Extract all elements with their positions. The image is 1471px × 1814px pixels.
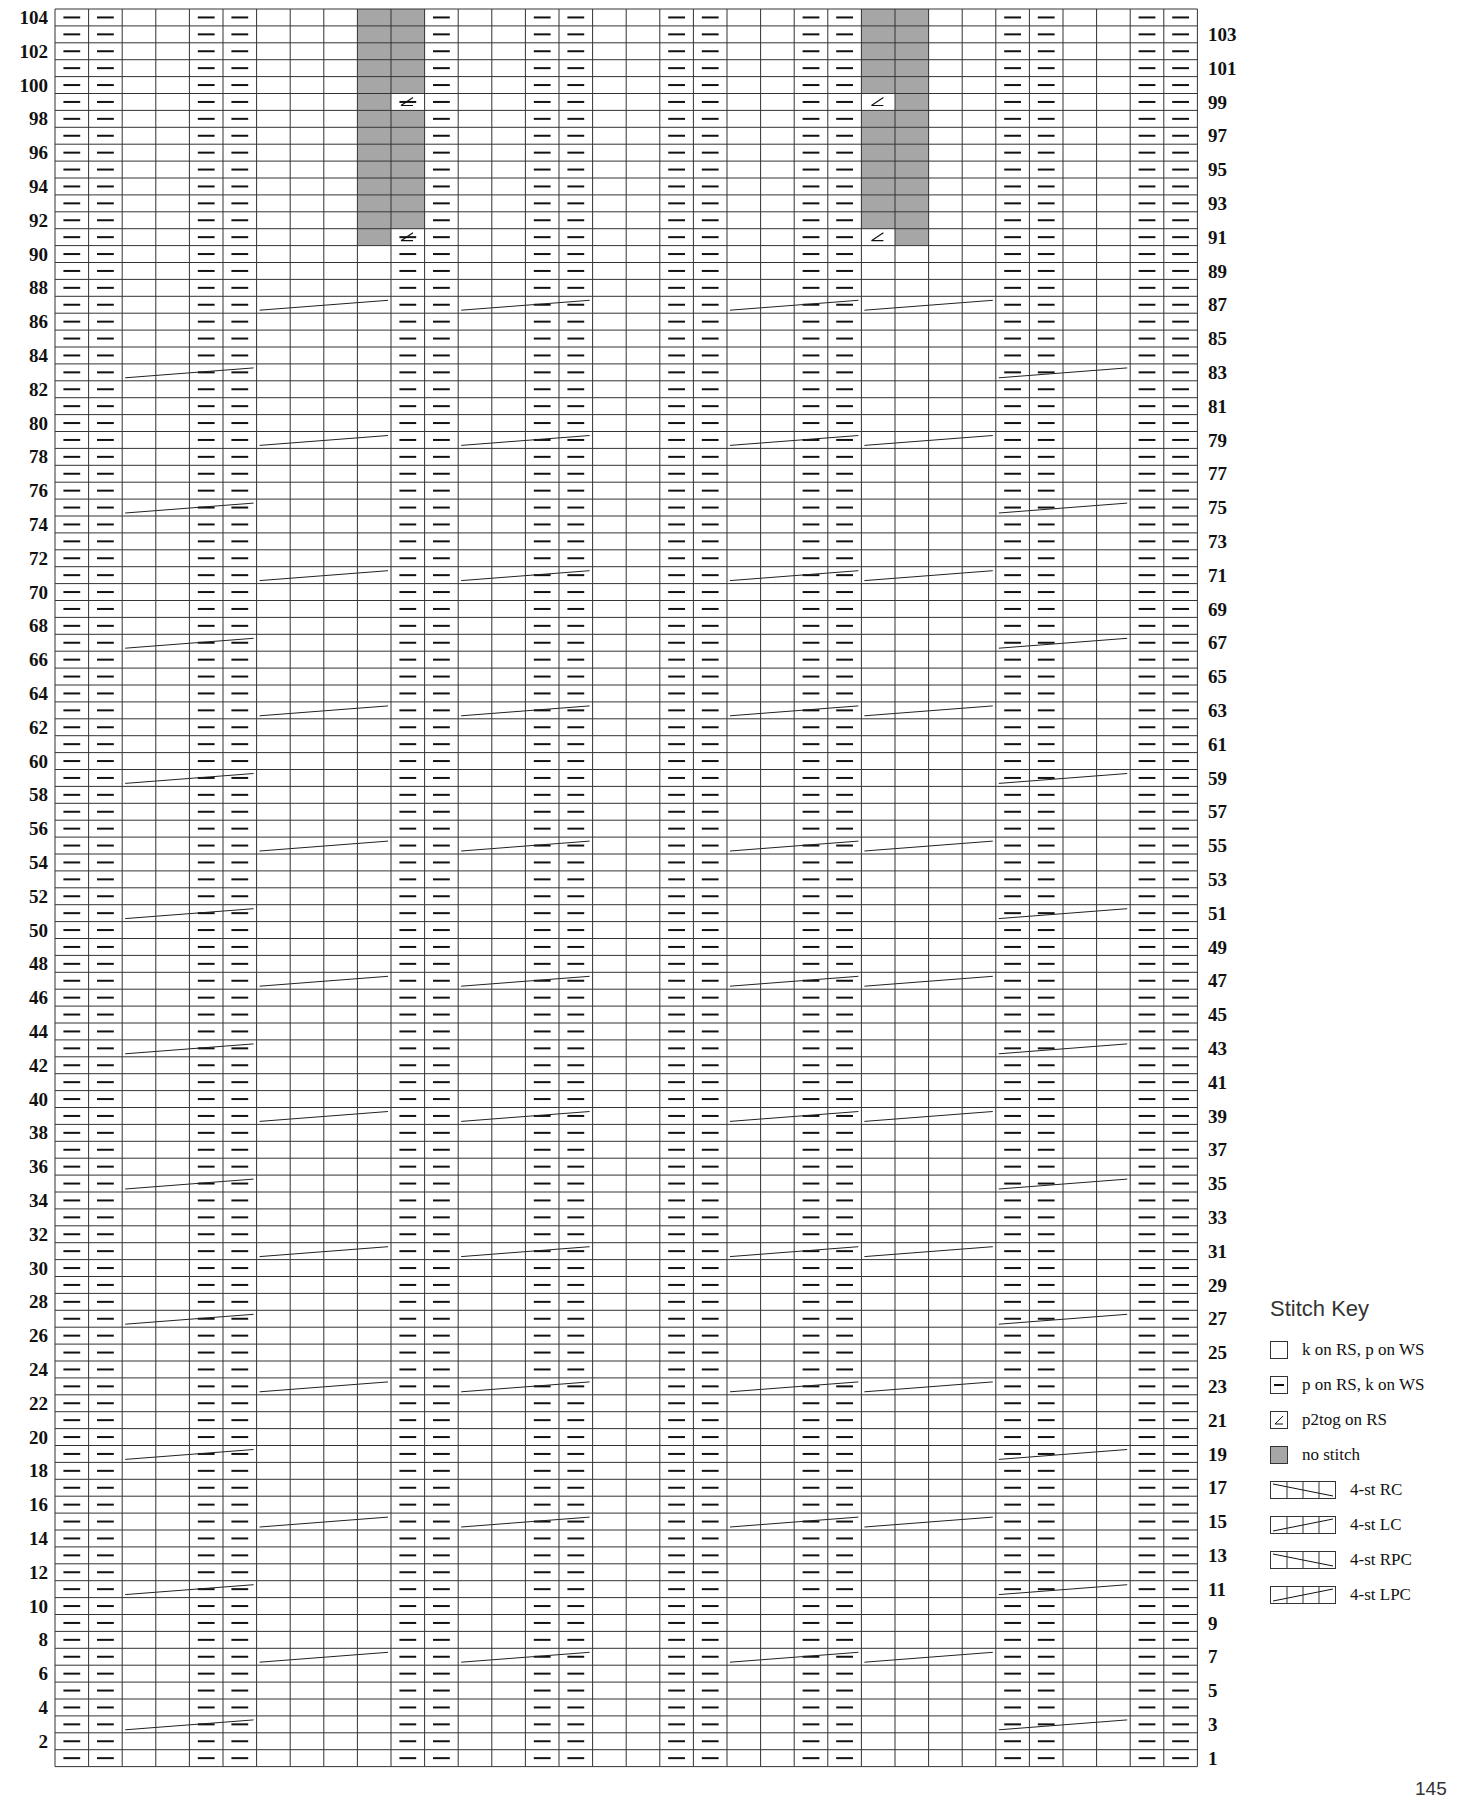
row-label-1: 1 <box>1208 1749 1218 1768</box>
row-label-82: 82 <box>4 380 48 399</box>
row-label-31: 31 <box>1208 1242 1227 1261</box>
key-item-cable-rc: 4-st RC <box>1270 1472 1470 1507</box>
row-label-98: 98 <box>4 109 48 128</box>
row-label-45: 45 <box>1208 1005 1227 1024</box>
key-item-label: no stitch <box>1302 1445 1360 1465</box>
row-label-66: 66 <box>4 650 48 669</box>
row-label-93: 93 <box>1208 194 1227 213</box>
row-label-85: 85 <box>1208 329 1227 348</box>
row-label-81: 81 <box>1208 397 1227 416</box>
row-label-65: 65 <box>1208 667 1227 686</box>
key-item-p2tog: p2tog on RS <box>1270 1402 1470 1437</box>
row-label-22: 22 <box>4 1394 48 1413</box>
row-label-29: 29 <box>1208 1276 1227 1295</box>
key-item-gray: no stitch <box>1270 1437 1470 1472</box>
row-label-56: 56 <box>4 819 48 838</box>
cable-rpc-icon <box>1270 1551 1336 1569</box>
row-label-35: 35 <box>1208 1174 1227 1193</box>
row-label-83: 83 <box>1208 363 1227 382</box>
row-label-51: 51 <box>1208 904 1227 923</box>
row-label-19: 19 <box>1208 1445 1227 1464</box>
row-label-47: 47 <box>1208 971 1227 990</box>
blank-icon <box>1270 1341 1288 1359</box>
row-label-89: 89 <box>1208 262 1227 281</box>
row-label-76: 76 <box>4 481 48 500</box>
row-label-84: 84 <box>4 346 48 365</box>
key-item-label: 4-st RC <box>1350 1480 1402 1500</box>
row-label-2: 2 <box>4 1732 48 1751</box>
row-label-55: 55 <box>1208 836 1227 855</box>
row-label-14: 14 <box>4 1529 48 1548</box>
row-label-28: 28 <box>4 1292 48 1311</box>
cable-rc-icon <box>1270 1481 1336 1499</box>
row-label-4: 4 <box>4 1698 48 1717</box>
knitting-chart <box>54 8 1198 1768</box>
row-label-44: 44 <box>4 1022 48 1041</box>
row-label-30: 30 <box>4 1259 48 1278</box>
stitch-key-title: Stitch Key <box>1270 1296 1470 1322</box>
row-label-41: 41 <box>1208 1073 1227 1092</box>
row-label-99: 99 <box>1208 93 1227 112</box>
row-label-87: 87 <box>1208 295 1227 314</box>
key-item-dash: p on RS, k on WS <box>1270 1367 1470 1402</box>
row-label-86: 86 <box>4 312 48 331</box>
row-label-60: 60 <box>4 752 48 771</box>
row-label-62: 62 <box>4 718 48 737</box>
row-label-13: 13 <box>1208 1546 1227 1565</box>
row-label-24: 24 <box>4 1360 48 1379</box>
row-label-3: 3 <box>1208 1715 1218 1734</box>
row-label-70: 70 <box>4 583 48 602</box>
row-label-59: 59 <box>1208 769 1227 788</box>
row-label-88: 88 <box>4 278 48 297</box>
row-label-6: 6 <box>4 1664 48 1683</box>
row-label-104: 104 <box>4 8 48 27</box>
row-label-71: 71 <box>1208 566 1227 585</box>
row-label-48: 48 <box>4 954 48 973</box>
row-label-64: 64 <box>4 684 48 703</box>
stitch-key: Stitch Key k on RS, p on WSp on RS, k on… <box>1270 1296 1470 1612</box>
row-label-80: 80 <box>4 414 48 433</box>
row-label-50: 50 <box>4 921 48 940</box>
row-label-36: 36 <box>4 1157 48 1176</box>
row-label-38: 38 <box>4 1123 48 1142</box>
p2tog-icon <box>1270 1411 1288 1429</box>
row-label-54: 54 <box>4 853 48 872</box>
row-label-7: 7 <box>1208 1647 1218 1666</box>
row-label-11: 11 <box>1208 1580 1226 1599</box>
row-label-97: 97 <box>1208 126 1227 145</box>
dash-icon <box>1270 1376 1288 1394</box>
key-item-label: 4-st LC <box>1350 1515 1401 1535</box>
row-label-15: 15 <box>1208 1512 1227 1531</box>
row-label-9: 9 <box>1208 1614 1218 1633</box>
row-label-94: 94 <box>4 177 48 196</box>
row-label-18: 18 <box>4 1461 48 1480</box>
row-label-16: 16 <box>4 1495 48 1514</box>
row-label-53: 53 <box>1208 870 1227 889</box>
row-label-46: 46 <box>4 988 48 1007</box>
row-label-32: 32 <box>4 1225 48 1244</box>
key-item-blank: k on RS, p on WS <box>1270 1332 1470 1367</box>
cable-lc-icon <box>1270 1516 1336 1534</box>
row-label-33: 33 <box>1208 1208 1227 1227</box>
row-label-8: 8 <box>4 1630 48 1649</box>
row-label-68: 68 <box>4 616 48 635</box>
key-item-cable-lc: 4-st LC <box>1270 1507 1470 1542</box>
row-label-102: 102 <box>4 42 48 61</box>
key-item-label: k on RS, p on WS <box>1302 1340 1425 1360</box>
key-item-label: p on RS, k on WS <box>1302 1375 1425 1395</box>
row-label-25: 25 <box>1208 1343 1227 1362</box>
row-label-26: 26 <box>4 1326 48 1345</box>
row-label-103: 103 <box>1208 25 1237 44</box>
key-item-label: 4-st LPC <box>1350 1585 1411 1605</box>
row-label-92: 92 <box>4 211 48 230</box>
row-label-42: 42 <box>4 1056 48 1075</box>
row-label-72: 72 <box>4 549 48 568</box>
key-item-label: 4-st RPC <box>1350 1550 1412 1570</box>
key-item-label: p2tog on RS <box>1302 1410 1387 1430</box>
row-label-101: 101 <box>1208 59 1237 78</box>
cable-lpc-icon <box>1270 1586 1336 1604</box>
row-label-58: 58 <box>4 785 48 804</box>
row-label-52: 52 <box>4 887 48 906</box>
row-label-21: 21 <box>1208 1411 1227 1430</box>
row-label-17: 17 <box>1208 1478 1227 1497</box>
